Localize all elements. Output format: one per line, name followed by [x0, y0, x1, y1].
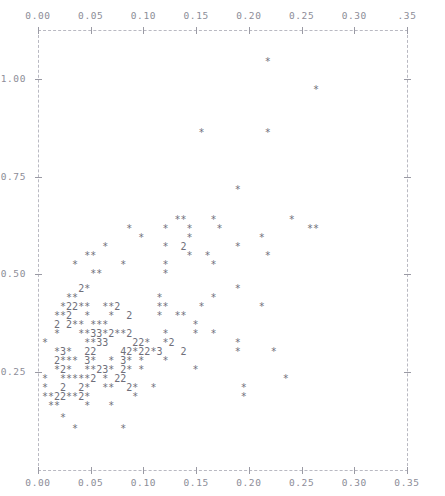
marker-row: * [36, 185, 241, 195]
marker-row: ** * * [36, 401, 114, 411]
marker-row: * [36, 85, 319, 95]
marker-row: ** * [36, 269, 168, 279]
marker-row: * [36, 57, 271, 67]
marker-row: * [36, 413, 66, 423]
data-marker-layer: * * * * * ** * * * * * * [0, 0, 445, 496]
marker-row: * * [36, 128, 271, 138]
scatter-plot-figure: 0.000.050.100.150.200.250.30.350.000.050… [0, 0, 445, 496]
marker-row: * * [36, 424, 126, 434]
